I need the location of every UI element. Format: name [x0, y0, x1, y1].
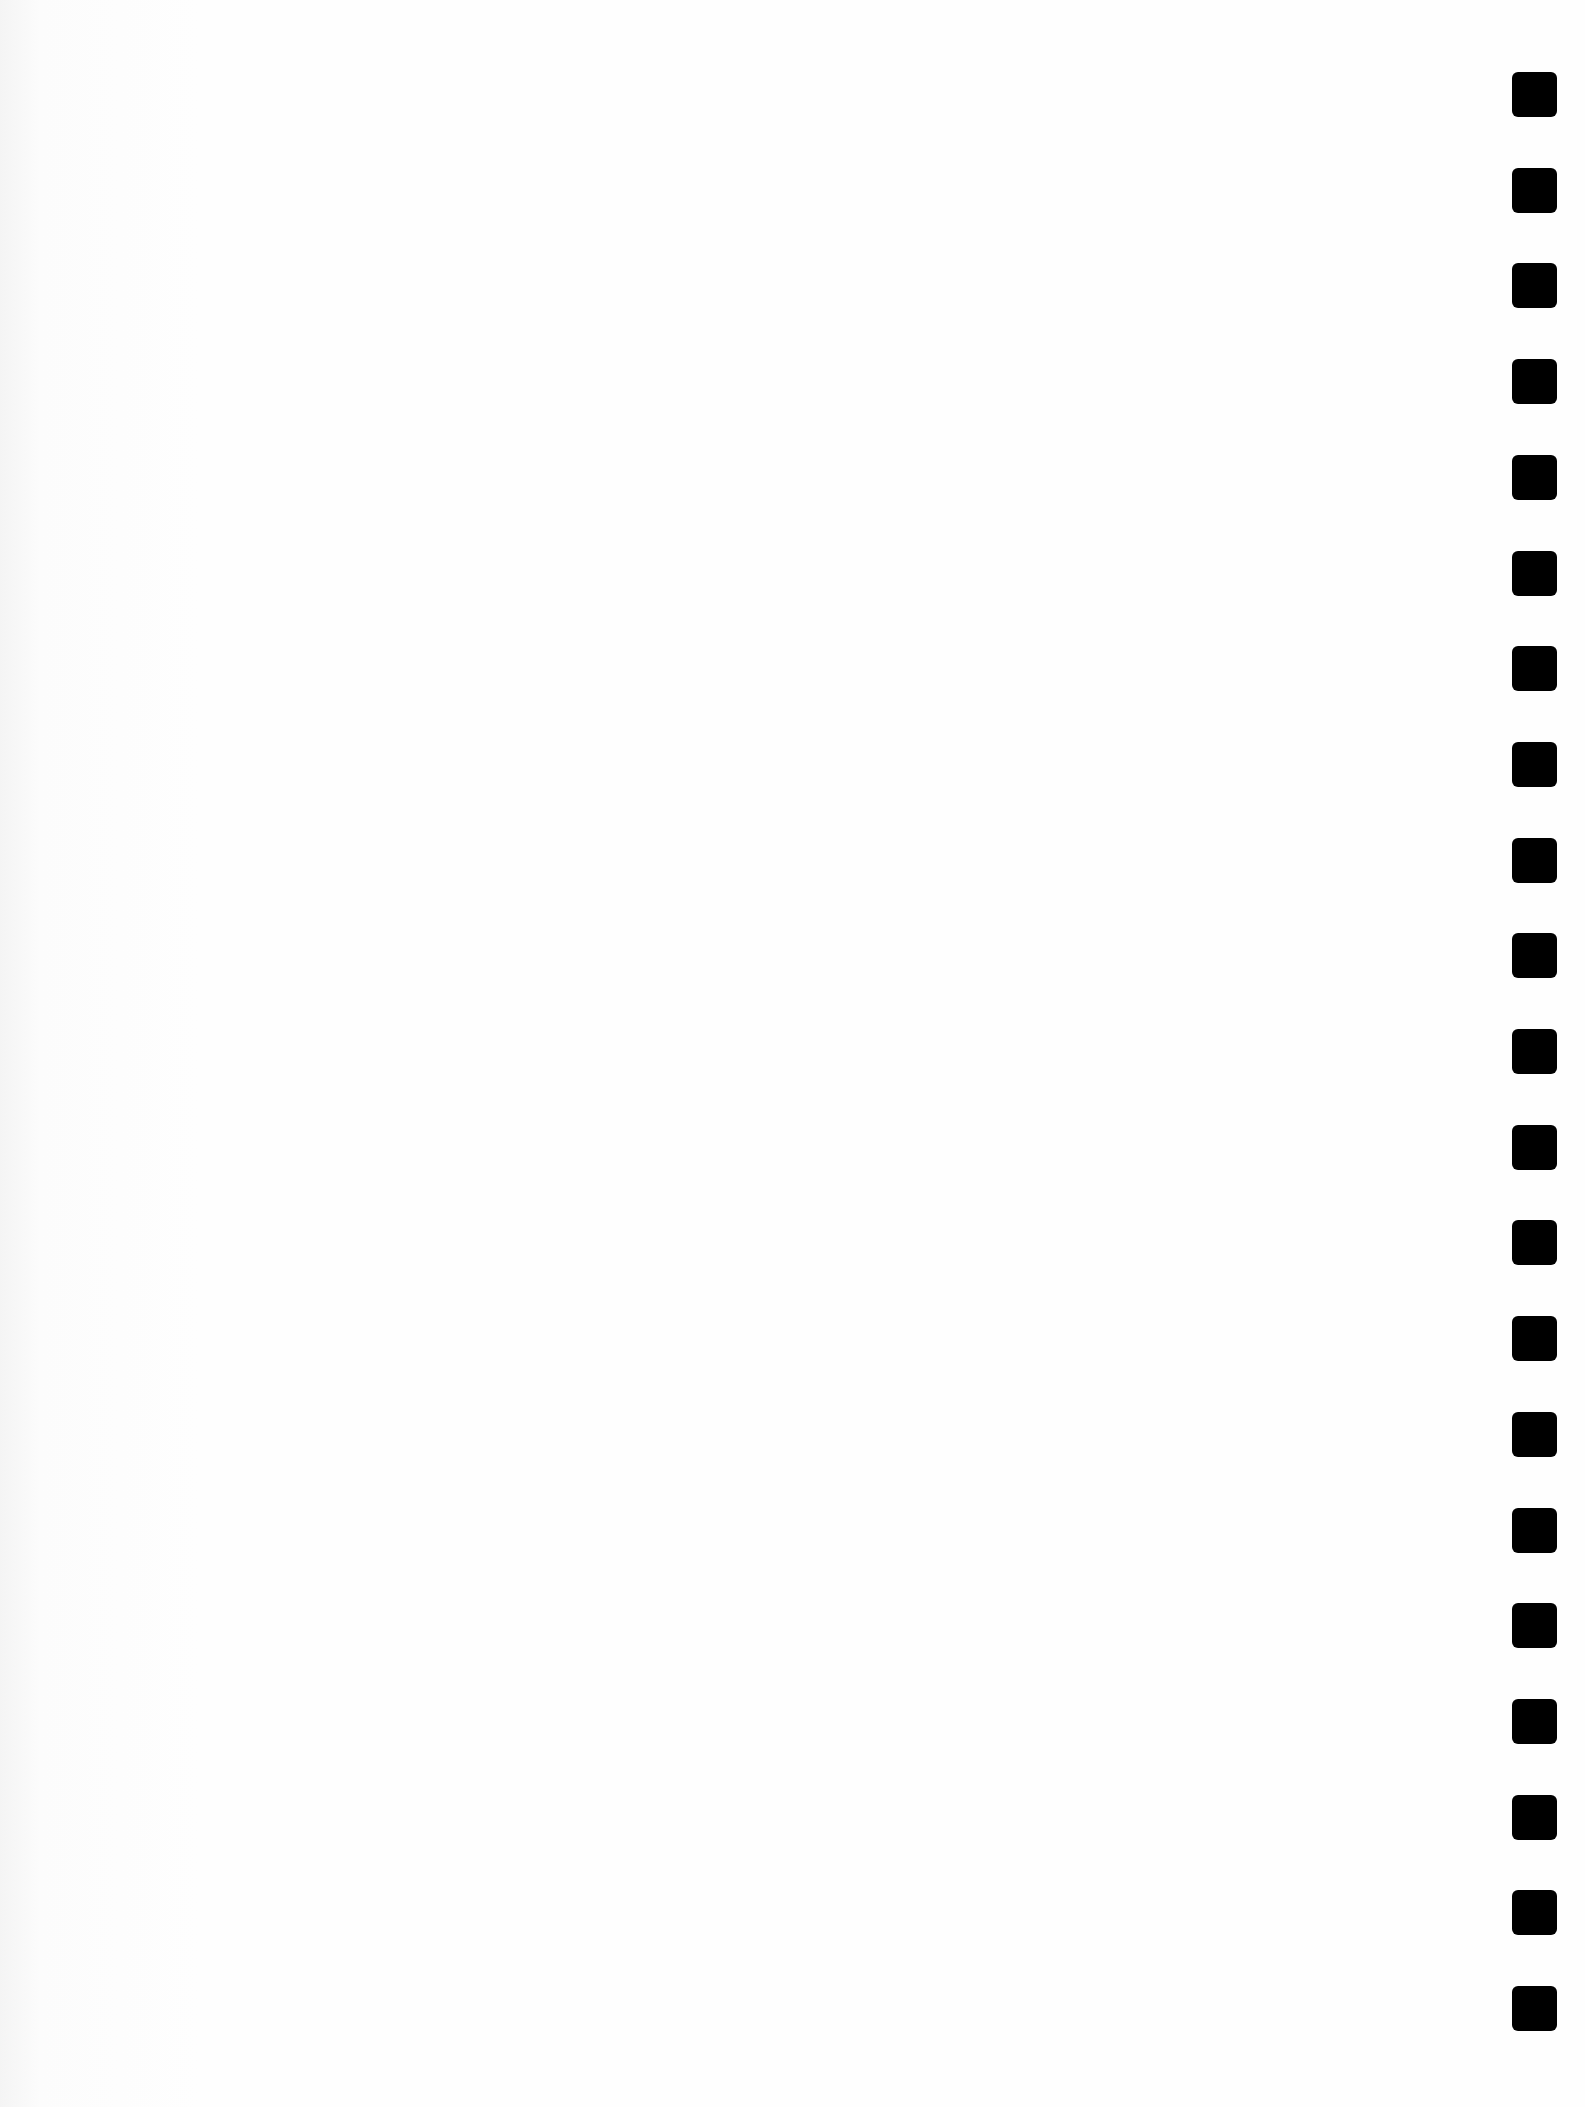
- blank-page: [0, 0, 1585, 2107]
- binding-hole: [1512, 1603, 1557, 1648]
- binding-hole: [1512, 455, 1557, 500]
- binding-hole: [1512, 742, 1557, 787]
- binding-hole: [1512, 1316, 1557, 1361]
- binding-hole: [1512, 1220, 1557, 1265]
- binding-hole: [1512, 1699, 1557, 1744]
- binding-hole: [1512, 646, 1557, 691]
- binding-holes-column: [1512, 0, 1557, 2107]
- binding-hole: [1512, 1890, 1557, 1935]
- binding-hole: [1512, 1125, 1557, 1170]
- binding-hole: [1512, 838, 1557, 883]
- binding-hole: [1512, 72, 1557, 117]
- binding-hole: [1512, 168, 1557, 213]
- binding-hole: [1512, 1795, 1557, 1840]
- binding-hole: [1512, 263, 1557, 308]
- binding-hole: [1512, 933, 1557, 978]
- binding-hole: [1512, 551, 1557, 596]
- binding-hole: [1512, 1986, 1557, 2031]
- binding-hole: [1512, 359, 1557, 404]
- binding-hole: [1512, 1029, 1557, 1074]
- binding-hole: [1512, 1508, 1557, 1553]
- binding-hole: [1512, 1412, 1557, 1457]
